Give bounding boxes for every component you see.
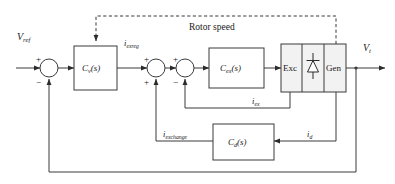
label-i-exchange: iexchange: [163, 130, 187, 139]
sum1-sign-minus: −: [36, 78, 41, 87]
label-v-t: Vt: [363, 43, 371, 53]
sum3-sign-minus: −: [173, 78, 178, 87]
id-feedback-path: [274, 92, 336, 141]
summing-junction-1[interactable]: [40, 59, 58, 77]
label-i-ex: iex: [252, 97, 260, 106]
label-v-ref: Vref: [17, 32, 30, 42]
sum3-sign-plus: +: [173, 55, 178, 64]
summing-junction-3[interactable]: [176, 59, 194, 77]
block-label-cex: Cex(s): [220, 63, 241, 73]
vt-tap-node: [354, 66, 357, 69]
block-label-cd: Cd(s): [228, 137, 247, 147]
sum1-sign-plus: +: [36, 55, 41, 64]
block-diagram-figure: Vref iexreg Vt iex id iexchange Rotor sp…: [0, 0, 395, 184]
summing-junction-2[interactable]: [147, 59, 165, 77]
label-i-exreg: iexreg: [124, 39, 139, 48]
sum2-sign-plus-bottom: +: [144, 78, 149, 87]
block-label-exc: Exc: [283, 63, 297, 73]
sum2-sign-plus-left: +: [144, 55, 149, 64]
label-i-d: id: [307, 130, 312, 139]
block-label-cv: Cv(s): [82, 63, 100, 73]
block-label-gen: Gen: [326, 63, 341, 73]
label-rotor-speed: Rotor speed: [189, 22, 235, 32]
